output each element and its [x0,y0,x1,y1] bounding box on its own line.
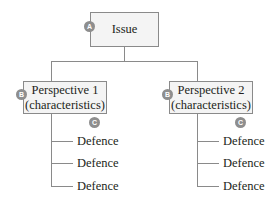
perspective-2-subtitle: (characteristics) [171,98,251,113]
right-drop-line [197,61,198,81]
perspective-2-box: Perspective 2 (characteristics) [169,81,253,114]
defence-item: Defence [223,134,265,148]
perspective-2-stem-line [197,114,198,187]
defence-branch-line [197,163,219,164]
defence-branch-line [51,186,73,187]
perspective-1-subtitle: (characteristics) [25,98,105,113]
issue-box: Issue [90,12,159,47]
left-drop-line [51,61,52,81]
defence-item: Defence [77,156,119,170]
defence-branch-line [51,141,73,142]
defence-item: Defence [223,156,265,170]
defence-branch-line [51,163,73,164]
badge-b-icon: B [16,89,27,100]
issue-label: Issue [112,22,138,37]
perspective-1-stem-line [51,114,52,187]
defence-branch-line [197,186,219,187]
defence-branch-line [197,141,219,142]
defence-item: Defence [223,179,265,193]
badge-c-icon: C [235,117,246,128]
defence-item: Defence [77,134,119,148]
badge-a-icon: A [84,21,95,32]
root-stem-line [124,46,125,61]
perspective-1-box: Perspective 1 (characteristics) [23,81,107,114]
perspective-2-title: Perspective 2 [178,83,245,98]
defence-item: Defence [77,179,119,193]
horizontal-connector-line [51,61,198,62]
badge-b-icon: B [162,89,173,100]
badge-c-icon: C [89,117,100,128]
perspective-1-title: Perspective 1 [32,83,99,98]
